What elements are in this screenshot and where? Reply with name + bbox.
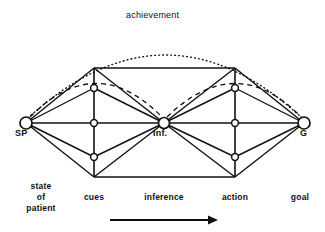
lens-model-figure: achievement SP Inf. G state of patient c… bbox=[0, 0, 325, 232]
node-inference-label: Inf. bbox=[153, 128, 167, 138]
axis-label-inference: inference bbox=[129, 192, 199, 202]
edge-action-upper-g bbox=[235, 88, 304, 123]
node-cue-upper bbox=[91, 85, 98, 92]
edge-cue-upper-inf bbox=[94, 88, 164, 123]
axis-label-goal: goal bbox=[276, 192, 324, 202]
node-cue-middle bbox=[91, 120, 98, 127]
axis-label-state-line-3: patient bbox=[10, 203, 72, 214]
edge-inf-action-top bbox=[164, 68, 235, 123]
axis-label-state-of-patient: state of patient bbox=[10, 181, 72, 214]
axis-label-state-line-2: of bbox=[10, 192, 72, 203]
achievement-arc bbox=[28, 55, 302, 118]
node-goal-label: G bbox=[300, 128, 307, 138]
axis-label-action: action bbox=[207, 192, 263, 202]
axis-label-state-line-1: state bbox=[10, 181, 72, 192]
edge-action-lower-g bbox=[235, 123, 304, 157]
achievement-arc-label: achievement bbox=[126, 10, 179, 20]
edge-inf-action-lower bbox=[164, 123, 235, 157]
node-inference bbox=[159, 118, 170, 129]
edge-sp-cue-top bbox=[26, 68, 94, 123]
node-sp-label: SP bbox=[15, 128, 27, 138]
process-arrow-head bbox=[208, 216, 218, 225]
node-action-upper bbox=[232, 85, 239, 92]
node-action-lower bbox=[232, 154, 239, 161]
axis-label-cues: cues bbox=[64, 192, 124, 202]
edge-action-top-g bbox=[235, 68, 304, 123]
edge-inf-action-bottom bbox=[164, 123, 235, 177]
node-cue-lower bbox=[91, 154, 98, 161]
node-action-middle bbox=[232, 120, 239, 127]
edge-cue-top-inf bbox=[94, 68, 164, 123]
edge-action-bottom-g bbox=[235, 123, 304, 177]
edge-sp-cue-bottom bbox=[26, 123, 94, 177]
edge-sp-cue-lower bbox=[26, 123, 94, 157]
